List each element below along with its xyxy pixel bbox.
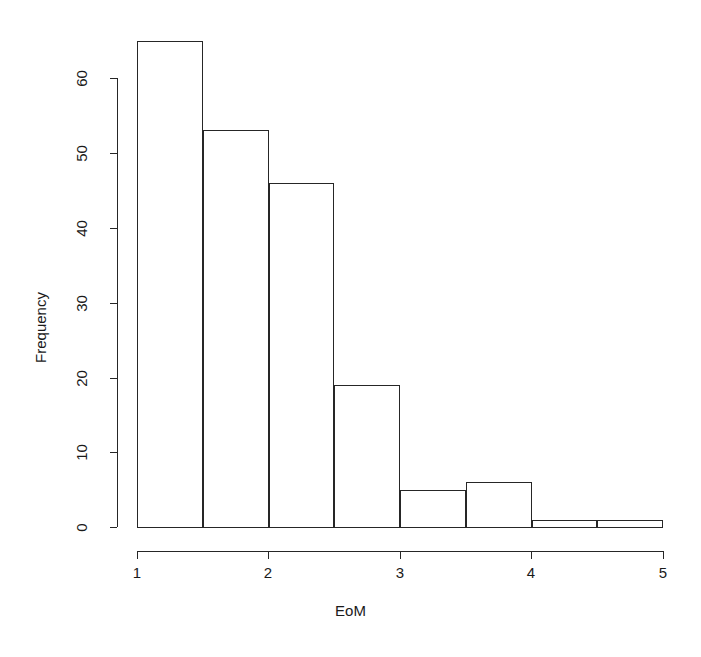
x-tick-4 (531, 551, 532, 559)
bar-bin-3 (269, 183, 335, 528)
x-tick-1 (137, 551, 138, 559)
x-tick-label-2: 2 (248, 564, 288, 581)
x-tick-label-4: 4 (511, 564, 551, 581)
x-tick-2 (268, 551, 269, 559)
bar-bin-6 (466, 482, 532, 528)
x-tick-5 (663, 551, 664, 559)
bar-bin-5 (400, 490, 466, 529)
histogram-chart: 0 10 20 30 40 50 60 Frequency (0, 0, 701, 657)
x-axis-title: EoM (0, 602, 701, 619)
x-tick-3 (400, 551, 401, 559)
x-tick-label-1: 1 (117, 564, 157, 581)
x-tick-label-3: 3 (380, 564, 420, 581)
bars-layer (0, 0, 701, 657)
bar-bin-1 (137, 41, 203, 529)
bar-bin-4 (334, 385, 400, 528)
x-tick-label-5: 5 (643, 564, 683, 581)
bar-bin-2 (203, 130, 269, 528)
plot-baseline (137, 527, 663, 528)
